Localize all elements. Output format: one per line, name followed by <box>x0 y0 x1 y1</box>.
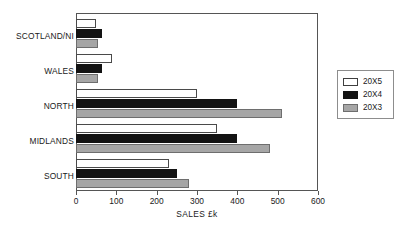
y-axis-label-wales: WALES <box>0 66 74 76</box>
x-tick-label-0: 0 <box>56 196 96 206</box>
x-tick-400 <box>237 191 238 195</box>
x-tick-100 <box>116 191 117 195</box>
x-tick-label-500: 500 <box>258 196 298 206</box>
x-tick-200 <box>157 191 158 195</box>
bar-midlands-20X4 <box>76 134 237 143</box>
x-tick-500 <box>278 191 279 195</box>
x-tick-0 <box>76 191 77 195</box>
bar-scotland-20X5 <box>76 19 96 28</box>
bar-wales-20X3 <box>76 74 98 83</box>
legend-label-20X4: 20X4 <box>363 90 382 99</box>
x-tick-label-400: 400 <box>217 196 257 206</box>
x-axis-title: SALES £k <box>76 209 318 219</box>
x-tick-label-300: 300 <box>177 196 217 206</box>
bar-north-20X3 <box>76 109 282 118</box>
legend-swatch-20X4 <box>343 91 358 99</box>
bar-wales-20X4 <box>76 64 102 73</box>
bar-midlands-20X5 <box>76 124 217 133</box>
x-tick-300 <box>197 191 198 195</box>
bar-south-20X5 <box>76 159 169 168</box>
bar-south-20X3 <box>76 179 189 188</box>
legend-row-20X3: 20X3 <box>343 101 389 114</box>
bar-scotland-20X4 <box>76 29 102 38</box>
bar-north-20X5 <box>76 89 197 98</box>
bar-north-20X4 <box>76 99 237 108</box>
bar-midlands-20X3 <box>76 144 270 153</box>
x-tick-label-600: 600 <box>298 196 338 206</box>
y-axis-label-scotland: SCOTLAND/NI <box>0 31 74 41</box>
legend-label-20X5: 20X5 <box>363 77 382 86</box>
y-axis-label-midlands: MIDLANDS <box>0 136 74 146</box>
bar-wales-20X5 <box>76 54 112 63</box>
legend-swatch-20X3 <box>343 104 358 112</box>
legend-swatch-20X5 <box>343 78 358 86</box>
sales-bar-chart: SCOTLAND/NI WALES NORTH MIDLANDS SOUTH 0… <box>0 0 400 229</box>
legend-row-20X5: 20X5 <box>343 75 389 88</box>
y-axis-label-south: SOUTH <box>0 171 74 181</box>
x-tick-600 <box>318 191 319 195</box>
y-axis-label-north: NORTH <box>0 101 74 111</box>
chart-legend: 20X5 20X4 20X3 <box>337 70 394 119</box>
bar-scotland-20X3 <box>76 39 98 48</box>
x-tick-label-100: 100 <box>96 196 136 206</box>
x-tick-label-200: 200 <box>137 196 177 206</box>
legend-row-20X4: 20X4 <box>343 88 389 101</box>
bar-south-20X4 <box>76 169 177 178</box>
legend-label-20X3: 20X3 <box>363 103 382 112</box>
